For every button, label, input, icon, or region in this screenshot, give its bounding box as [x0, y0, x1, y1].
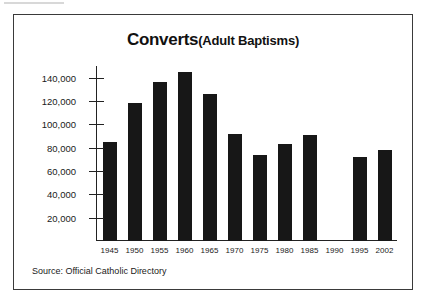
y-axis-tick-mark — [89, 148, 104, 149]
bar-slot: 1985 — [297, 66, 322, 241]
y-axis-tick-group: 20,00040,00060,00080,000100,000120,00014… — [81, 66, 89, 241]
bar-series-group: 1945195019551960196519701975198019851990… — [97, 66, 397, 241]
bar-1995 — [353, 157, 367, 241]
chart-title-main: Converts — [127, 30, 198, 49]
bar-slot: 1995 — [347, 66, 372, 241]
chart-title-sub: (Adult Baptisms) — [198, 33, 299, 48]
scan-artifact — [4, 2, 64, 4]
bar-slot: 1975 — [247, 66, 272, 241]
y-axis-tick-mark — [89, 78, 104, 79]
x-axis-tick-label: 1970 — [226, 246, 244, 255]
source-note: Source: Official Catholic Directory — [32, 266, 166, 276]
x-axis-tick-label: 1965 — [201, 246, 219, 255]
y-axis-tick-label: 20,000 — [47, 212, 76, 223]
y-axis-tick-mark — [89, 101, 104, 102]
y-axis-tick-mark — [89, 124, 104, 125]
x-axis-tick-label: 1975 — [251, 246, 269, 255]
y-axis-tick-label: 40,000 — [47, 189, 76, 200]
bar-1955 — [153, 82, 167, 241]
bar-1965 — [203, 94, 217, 241]
y-axis-tick-mark — [89, 194, 104, 195]
y-axis-tick-mark — [89, 171, 104, 172]
x-axis-tick-label: 1995 — [351, 246, 369, 255]
x-axis-tick-label: 1950 — [126, 246, 144, 255]
y-axis-tick-mark — [89, 218, 104, 219]
chart-figure-frame: Converts(Adult Baptisms) 20,00040,00060,… — [13, 14, 413, 290]
bar-1950 — [128, 103, 142, 241]
x-axis-tick-label: 2002 — [376, 246, 394, 255]
x-axis-tick-label: 1990 — [326, 246, 344, 255]
x-axis-tick-label: 1945 — [101, 246, 119, 255]
bar-slot: 1970 — [222, 66, 247, 241]
bar-slot: 2002 — [372, 66, 397, 241]
bar-slot: 1980 — [272, 66, 297, 241]
bar-2002 — [378, 150, 392, 241]
x-axis-tick-label: 1960 — [176, 246, 194, 255]
plot-area: 20,00040,00060,00080,000100,000120,00014… — [81, 66, 397, 241]
y-axis-tick-label: 120,000 — [42, 96, 76, 107]
bar-slot: 1990 — [322, 66, 347, 241]
bar-1945 — [103, 142, 117, 241]
bar-1975 — [253, 155, 267, 241]
chart-title: Converts(Adult Baptisms) — [14, 30, 412, 50]
bar-slot: 1950 — [122, 66, 147, 241]
x-axis-tick-label: 1985 — [301, 246, 319, 255]
y-axis-tick-label: 140,000 — [42, 72, 76, 83]
x-axis-tick-label: 1980 — [276, 246, 294, 255]
bar-slot: 1960 — [172, 66, 197, 241]
bar-slot: 1955 — [147, 66, 172, 241]
y-axis-tick-label: 60,000 — [47, 166, 76, 177]
y-axis-tick-label: 100,000 — [42, 119, 76, 130]
bar-slot: 1945 — [97, 66, 122, 241]
bar-1960 — [178, 72, 192, 241]
bar-1970 — [228, 134, 242, 241]
bar-1985 — [303, 135, 317, 241]
y-axis-tick-label: 80,000 — [47, 142, 76, 153]
x-axis-tick-label: 1955 — [151, 246, 169, 255]
bar-slot: 1965 — [197, 66, 222, 241]
bar-1980 — [278, 144, 292, 241]
